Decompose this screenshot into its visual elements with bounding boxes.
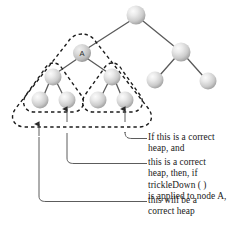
annotation-2-line-3: trickleDown ( ) [148,180,226,191]
annotation-3: this will be a correct heap [148,195,197,218]
edge-root-a [88,21,130,48]
edge-a-al [58,59,77,72]
node-a-right-r [117,92,134,109]
node-a-right [104,69,121,86]
annotation-2-line-2: heap, then, if [148,168,226,179]
leader-line-3 [39,137,147,202]
annotation-2-line-1: this is a correct [148,157,226,168]
edge-r1-r [187,58,203,76]
tree-nodes: A [32,6,217,109]
node-a-left-r [59,92,76,109]
node-root [127,6,146,25]
leader-line-1 [125,132,147,139]
leader-line-2 [67,133,147,164]
node-right-gc-l [147,72,164,89]
annotation-1-line-2: heap, and [148,143,215,154]
edge-a-ar [88,59,107,72]
annotation-3-line-1: this will be a [148,195,197,206]
node-a-label: A [79,49,84,58]
node-right-gc-r [200,73,217,90]
leader-lines [39,109,147,202]
node-a-right-l [90,92,107,109]
heap-diagram-figure: A If this is a correct heap, and this is… [0,0,239,236]
edge-root-r1 [143,21,175,47]
annotation-1-line-1: If this is a correct [148,132,215,143]
node-a-left [45,69,62,86]
annotation-1: If this is a correct heap, and [148,132,215,155]
annotation-3-line-2: correct heap [148,206,197,217]
edge-r1-l [160,58,175,75]
node-a-left-l [32,92,49,109]
node-right-child [172,43,191,62]
